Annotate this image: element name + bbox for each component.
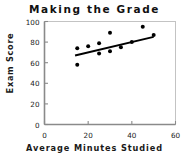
data-point	[75, 63, 79, 67]
y-tick-label: 80	[18, 38, 40, 47]
axis-frame	[45, 22, 176, 125]
data-point	[119, 45, 123, 49]
y-tick-label: 60	[18, 59, 40, 68]
y-tick-label: 100	[18, 18, 40, 27]
data-point	[75, 46, 79, 50]
y-tick-label: 0	[18, 121, 40, 130]
data-point	[97, 41, 101, 45]
data-point	[108, 31, 112, 35]
data-point	[97, 51, 101, 55]
chart-container: Making the Grade Exam Score Average Minu…	[0, 0, 189, 160]
data-point	[86, 44, 90, 48]
data-point	[130, 40, 134, 44]
x-tick-label: 0	[35, 131, 55, 140]
x-tick-label: 20	[78, 131, 98, 140]
data-point	[108, 49, 112, 53]
axis-ticks	[45, 22, 176, 125]
data-point	[141, 25, 145, 29]
y-tick-label: 40	[18, 79, 40, 88]
data-point	[152, 33, 156, 37]
x-tick-label: 40	[122, 131, 142, 140]
x-tick-label: 60	[166, 131, 186, 140]
y-tick-label: 20	[18, 100, 40, 109]
